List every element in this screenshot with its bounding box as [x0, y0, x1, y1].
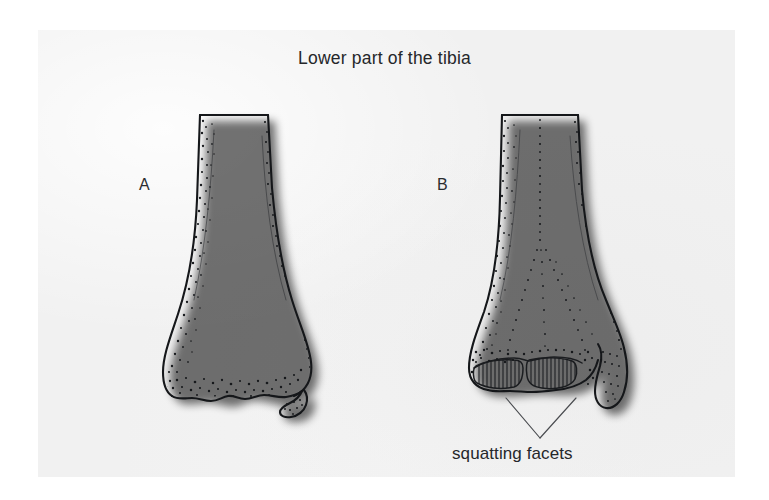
panel-letter-a: A	[139, 176, 150, 194]
bone-b	[469, 115, 627, 409]
bone-a	[163, 115, 311, 417]
figure-root: Lower part of the tibia A B squatting fa…	[0, 0, 769, 500]
caption-leader-lines	[506, 398, 576, 438]
panel-letter-b: B	[437, 176, 448, 194]
figure-caption-squatting-facets: squatting facets	[452, 444, 573, 464]
figure-title: Lower part of the tibia	[0, 48, 769, 69]
bone-illustration	[0, 0, 769, 500]
